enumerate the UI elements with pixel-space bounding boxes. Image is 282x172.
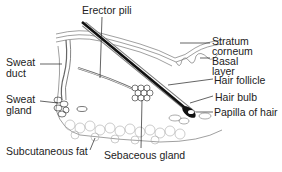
label-sweat-duct-line1: Sweat [6,57,35,68]
erector-pili-muscle [78,68,140,92]
label-sebaceous-gland: Sebaceous gland [104,150,185,161]
papilla [188,110,194,114]
label-sweat-gland-line2: gland [6,105,32,116]
sweat-gland [54,97,87,117]
label-sweat-gland-line1: Sweat [6,94,35,105]
label-papilla-of-hair: Papilla of hair [214,107,278,118]
label-subcutaneous-fat: Subcutaneous fat [6,146,88,157]
label-sweat-duct-line2: duct [6,68,26,79]
label-hair-follicle: Hair follicle [214,75,265,86]
sebaceous-gland [132,85,153,101]
label-hair-bulb: Hair bulb [215,92,257,103]
subcutaneous-fat [65,120,185,144]
label-erector-pili: Erector pili [82,5,132,16]
sweat-duct [61,40,66,100]
